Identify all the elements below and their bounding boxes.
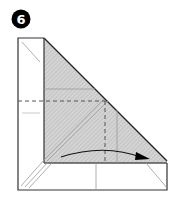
crease-corner-diagonal-3	[29, 163, 52, 188]
step-badge: 6	[12, 10, 31, 29]
crease-corner-diagonal-2	[25, 162, 48, 187]
crease-bottom-right-diagonal	[146, 163, 167, 188]
crease-corner-diagonal-1	[21, 160, 44, 186]
crease-left-diagonal	[22, 42, 40, 62]
step-number: 6	[16, 12, 25, 27]
origami-diagram: 6	[0, 0, 178, 209]
